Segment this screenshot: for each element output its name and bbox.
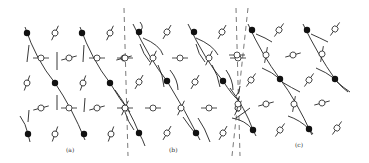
filled-atom-dot xyxy=(107,80,113,86)
filled-atom-dot xyxy=(193,130,199,136)
chain-curve xyxy=(83,45,84,62)
open-circle-bond-icon xyxy=(32,103,49,113)
open-circle-bond-icon xyxy=(273,122,287,139)
chain-curve xyxy=(256,34,272,42)
panel-label-a: (a) xyxy=(66,146,74,153)
open-circle-bond-icon xyxy=(257,99,274,109)
filled-atom-dot xyxy=(136,29,142,35)
panel-label-b: (b) xyxy=(169,146,178,153)
open-circle-bond-icon xyxy=(147,49,159,66)
open-circle-bond-icon xyxy=(284,50,301,60)
filled-atom-dot xyxy=(25,131,31,137)
open-circle-bond-icon xyxy=(77,74,88,91)
open-circle-bond-icon xyxy=(145,105,161,111)
chain-curve xyxy=(311,34,328,42)
filled-atom-dot xyxy=(332,76,338,82)
filled-atom-dot xyxy=(304,27,310,33)
open-circle-bond-icon xyxy=(21,74,32,91)
open-circle-bond-icon xyxy=(215,24,228,41)
open-circle-bond-icon xyxy=(262,47,271,64)
open-circle-bond-icon xyxy=(33,55,49,61)
open-circle-bond-icon xyxy=(132,74,145,91)
open-circle-bond-icon xyxy=(244,72,258,89)
open-circle-bond-icon xyxy=(330,120,344,137)
filled-atom-dot xyxy=(277,76,283,82)
open-circle-bond-icon xyxy=(175,99,187,116)
filled-atom-dot xyxy=(79,30,85,36)
filled-atom-dot xyxy=(164,78,170,84)
open-circle-bond-icon xyxy=(61,105,77,111)
domain-boundary-dashed-line xyxy=(236,8,240,156)
open-circle-bond-icon xyxy=(272,22,286,39)
chain-curve xyxy=(316,68,335,79)
chain-curve xyxy=(198,118,210,142)
open-circle-bond-icon xyxy=(203,49,215,66)
chain-curve xyxy=(282,82,300,92)
filled-atom-dot xyxy=(249,27,255,33)
open-circle-bond-icon xyxy=(88,103,105,113)
open-circle-bond-icon xyxy=(172,55,188,61)
panel-label-c: (c) xyxy=(295,141,303,148)
filled-atom-dot xyxy=(191,29,197,35)
open-circle-bond-icon xyxy=(216,125,229,142)
filled-atom-dot xyxy=(250,127,256,133)
filled-atom-dot xyxy=(24,30,30,36)
lattice-figure: (a) (b) (c) xyxy=(0,0,369,163)
domain-boundary-dashed-line xyxy=(232,8,248,156)
open-circle-bond-icon xyxy=(302,72,316,89)
open-circle-bond-icon xyxy=(104,24,116,41)
filled-atom-dot xyxy=(306,126,312,132)
filled-atom-dot xyxy=(136,130,142,136)
open-circle-bond-icon xyxy=(49,24,61,41)
chain-curve xyxy=(27,45,29,62)
chain-curve xyxy=(125,112,134,130)
lattice-diagram-svg xyxy=(0,0,369,163)
filled-atom-dot xyxy=(52,80,58,86)
chain-curve xyxy=(80,27,130,112)
chain-curve xyxy=(84,98,85,112)
open-circle-bond-icon xyxy=(49,125,60,142)
open-circle-bond-icon xyxy=(188,74,201,91)
open-circle-bond-icon xyxy=(313,98,330,108)
open-circle-bond-icon xyxy=(328,21,342,38)
open-circle-bond-icon xyxy=(201,105,217,111)
chain-curve xyxy=(143,38,163,55)
open-circle-bond-icon xyxy=(160,24,173,41)
open-circle-bond-icon xyxy=(89,55,105,61)
open-circle-bond-icon xyxy=(60,53,77,63)
chain-curve xyxy=(337,82,350,92)
chain-curve xyxy=(28,110,29,122)
filled-atom-dot xyxy=(81,131,87,137)
domain-boundary-dashed-line xyxy=(124,8,128,156)
open-circle-bond-icon xyxy=(160,125,173,142)
open-circle-bond-icon xyxy=(105,125,116,142)
open-circle-bond-icon xyxy=(290,96,299,113)
filled-atom-dot xyxy=(220,78,226,84)
